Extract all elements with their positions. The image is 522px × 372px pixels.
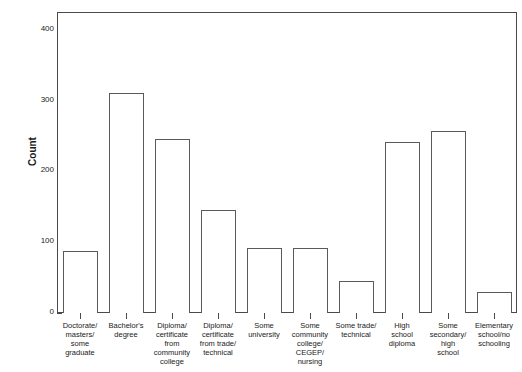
x-tick-label-line: from trade/ bbox=[195, 339, 241, 348]
x-tick-label-line: school bbox=[379, 330, 425, 339]
y-axis-tick: 400 bbox=[0, 30, 62, 31]
y-axis-title: Count bbox=[27, 122, 38, 182]
bar bbox=[385, 142, 420, 313]
bar-series bbox=[57, 12, 517, 313]
y-axis-tick: 0 bbox=[0, 313, 62, 314]
y-axis-tick: 200 bbox=[0, 171, 62, 172]
x-tick-mark bbox=[402, 313, 403, 319]
bar bbox=[109, 93, 144, 313]
x-tick-label-line: community bbox=[287, 330, 333, 339]
x-tick-label-line: university bbox=[241, 330, 287, 339]
bar-chart: Count 0100200300400 Doctorate/masters/so… bbox=[0, 0, 522, 372]
x-axis-labels: Doctorate/masters/somegraduateBachelor's… bbox=[57, 321, 517, 372]
x-tick-label: Diploma/certificatefrom trade/technical bbox=[195, 321, 241, 357]
x-tick-label-line: college/ bbox=[287, 339, 333, 348]
x-tick-mark bbox=[172, 313, 173, 319]
y-tick-label: 0 bbox=[50, 307, 54, 316]
x-tick-label-line: college bbox=[149, 357, 195, 366]
x-tick-label-line: school bbox=[425, 348, 471, 357]
x-tick-label-line: some bbox=[57, 339, 103, 348]
x-tick-label-line: certificate bbox=[195, 330, 241, 339]
x-tick-label-line: technical bbox=[195, 348, 241, 357]
bar bbox=[247, 248, 282, 313]
x-tick-label-line: CEGEP/ bbox=[287, 348, 333, 357]
bar bbox=[477, 292, 512, 313]
y-axis-tick: 300 bbox=[0, 101, 62, 102]
x-tick-label-line: Some bbox=[287, 321, 333, 330]
x-tick-mark bbox=[310, 313, 311, 319]
x-tick-label-line: technical bbox=[333, 330, 379, 339]
x-tick-label: Bachelor'sdegree bbox=[103, 321, 149, 339]
x-tick-mark bbox=[218, 313, 219, 319]
y-tick-label: 200 bbox=[41, 165, 54, 174]
x-tick-label-line: school/no bbox=[471, 330, 517, 339]
y-tick-label: 100 bbox=[41, 236, 54, 245]
x-tick-label-line: High bbox=[379, 321, 425, 330]
x-tick-label-line: Diploma/ bbox=[149, 321, 195, 330]
x-tick-label-line: Some trade/ bbox=[333, 321, 379, 330]
bar bbox=[201, 210, 236, 313]
x-axis-ticks bbox=[57, 313, 517, 320]
x-tick-label-line: Bachelor's bbox=[103, 321, 149, 330]
x-tick-mark bbox=[448, 313, 449, 319]
x-tick-label-line: Elementary bbox=[471, 321, 517, 330]
x-tick-label-line: Diploma/ bbox=[195, 321, 241, 330]
bar bbox=[431, 131, 466, 313]
x-tick-mark bbox=[126, 313, 127, 319]
x-tick-label-line: degree bbox=[103, 330, 149, 339]
x-tick-label-line: high bbox=[425, 339, 471, 348]
x-tick-label-line: nursing bbox=[287, 357, 333, 366]
x-tick-label-line: secondary/ bbox=[425, 330, 471, 339]
x-tick-label: Highschooldiploma bbox=[379, 321, 425, 348]
x-tick-label-line: schooling bbox=[471, 339, 517, 348]
bar bbox=[293, 248, 328, 313]
x-tick-label-line: Some bbox=[425, 321, 471, 330]
x-tick-label-line: Doctorate/ bbox=[57, 321, 103, 330]
x-tick-label: Diploma/certificatefromcommunitycollege bbox=[149, 321, 195, 366]
bar bbox=[63, 251, 98, 313]
x-tick-mark bbox=[264, 313, 265, 319]
x-tick-label-line: from bbox=[149, 339, 195, 348]
x-tick-label: Somesecondary/highschool bbox=[425, 321, 471, 357]
x-tick-label-line: community bbox=[149, 348, 195, 357]
x-tick-mark bbox=[356, 313, 357, 319]
y-axis-tick: 100 bbox=[0, 242, 62, 243]
x-tick-label: Somecommunitycollege/CEGEP/nursing bbox=[287, 321, 333, 366]
y-tick-label: 300 bbox=[41, 95, 54, 104]
x-tick-label-line: certificate bbox=[149, 330, 195, 339]
x-tick-label-line: graduate bbox=[57, 348, 103, 357]
bar bbox=[339, 281, 374, 313]
x-tick-label: Doctorate/masters/somegraduate bbox=[57, 321, 103, 357]
x-tick-mark bbox=[80, 313, 81, 319]
bar bbox=[155, 139, 190, 313]
x-tick-label: Elementaryschool/noschooling bbox=[471, 321, 517, 348]
x-tick-label-line: diploma bbox=[379, 339, 425, 348]
x-tick-label: Someuniversity bbox=[241, 321, 287, 339]
x-tick-label-line: masters/ bbox=[57, 330, 103, 339]
x-tick-label: Some trade/technical bbox=[333, 321, 379, 339]
x-tick-label-line: Some bbox=[241, 321, 287, 330]
y-tick-label: 400 bbox=[41, 24, 54, 33]
x-tick-mark bbox=[494, 313, 495, 319]
